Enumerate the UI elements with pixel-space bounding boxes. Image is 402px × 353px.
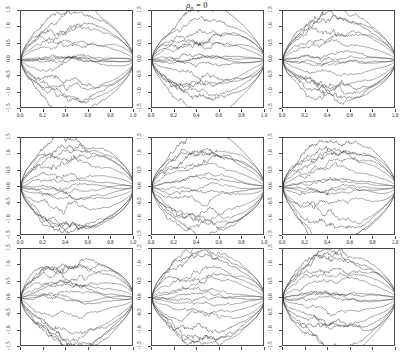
x-tick-label: 0.8 (103, 113, 117, 118)
y-tick-mark (17, 75, 20, 76)
y-tick-label: -0.5 (137, 306, 142, 320)
sample-path (21, 187, 133, 200)
x-tick-label: 0.8 (234, 240, 248, 245)
sample-path (283, 252, 395, 298)
y-tick-label: 1.0 (6, 146, 11, 160)
y-tick-mark (279, 281, 282, 282)
y-tick-mark (148, 10, 151, 11)
y-tick-label: -1.0 (137, 211, 142, 225)
x-tick-mark (350, 347, 351, 350)
sample-path (152, 33, 264, 60)
x-tick-mark (110, 347, 111, 350)
y-tick-mark (17, 92, 20, 93)
y-tick-label: -0.5 (137, 195, 142, 209)
y-tick-mark (148, 137, 151, 138)
sample-path (21, 298, 133, 346)
y-tick-mark (279, 43, 282, 44)
sample-path (21, 298, 133, 342)
y-tick-mark (279, 75, 282, 76)
y-tick-mark (279, 26, 282, 27)
sample-path (21, 60, 133, 102)
y-tick-mark (148, 186, 151, 187)
x-tick-label: 0.6 (212, 113, 226, 118)
sample-path (152, 187, 264, 221)
y-tick-label: -1.5 (6, 101, 11, 115)
y-tick-label: -0.5 (6, 306, 11, 320)
y-tick-label: -0.5 (268, 195, 273, 209)
x-tick-label: 0.8 (365, 113, 379, 118)
y-tick-label: 0.5 (6, 273, 11, 287)
plot-area (282, 248, 395, 346)
y-tick-mark (17, 137, 20, 138)
y-tick-label: -1.0 (6, 322, 11, 336)
y-tick-mark (279, 10, 282, 11)
sample-path (152, 266, 264, 298)
sample-path (283, 298, 395, 346)
sample-path (283, 268, 395, 298)
x-tick-label: 0.6 (81, 113, 95, 118)
y-tick-mark (279, 297, 282, 298)
y-tick-label: 0.0 (137, 52, 142, 66)
y-tick-mark (279, 170, 282, 171)
y-tick-label: 0.5 (137, 273, 142, 287)
x-tick-label: 0.6 (343, 240, 357, 245)
y-tick-label: 1.0 (268, 257, 273, 271)
x-tick-label: 0.0 (13, 113, 27, 118)
sample-path (283, 148, 395, 187)
x-tick-mark (43, 347, 44, 350)
sample-path (152, 60, 264, 87)
sample-path (21, 293, 133, 303)
sample-path (21, 298, 133, 346)
y-tick-label: 0.0 (268, 179, 273, 193)
sample-path (21, 11, 133, 60)
sample-path (283, 60, 395, 65)
y-tick-label: -1.5 (137, 228, 142, 242)
x-tick-label: 0.0 (275, 113, 289, 118)
sample-path (283, 60, 395, 66)
y-tick-mark (148, 202, 151, 203)
y-tick-label: -0.5 (268, 68, 273, 82)
y-tick-label: -1.0 (137, 84, 142, 98)
plot-area (151, 10, 264, 108)
sample-path (283, 298, 395, 327)
y-tick-label: -1.0 (6, 84, 11, 98)
y-tick-mark (17, 313, 20, 314)
x-tick-label: 0.4 (58, 240, 72, 245)
x-tick-mark (133, 347, 134, 350)
y-tick-label: -1.5 (268, 228, 273, 242)
y-tick-label: 1.0 (268, 19, 273, 33)
y-tick-mark (17, 26, 20, 27)
y-tick-label: 1.5 (6, 3, 11, 17)
y-tick-mark (148, 75, 151, 76)
x-tick-label: 0.4 (320, 113, 334, 118)
x-tick-mark (219, 347, 220, 350)
y-tick-mark (17, 248, 20, 249)
x-tick-mark (151, 347, 152, 350)
x-tick-mark (196, 347, 197, 350)
y-tick-label: 0.5 (137, 35, 142, 49)
y-tick-label: -1.0 (268, 322, 273, 336)
x-tick-label: 1.0 (388, 113, 402, 118)
sample-path (152, 60, 264, 88)
y-tick-mark (17, 43, 20, 44)
y-tick-mark (279, 248, 282, 249)
y-tick-label: -1.0 (137, 322, 142, 336)
sample-path (283, 298, 395, 329)
y-tick-label: 1.0 (268, 146, 273, 160)
sample-path (152, 298, 264, 343)
y-tick-label: -0.5 (6, 195, 11, 209)
y-tick-label: 1.5 (6, 241, 11, 255)
x-tick-mark (241, 347, 242, 350)
y-tick-mark (279, 219, 282, 220)
sample-path (283, 177, 395, 187)
y-tick-mark (148, 297, 151, 298)
y-tick-label: 0.0 (6, 179, 11, 193)
y-tick-label: -1.5 (268, 101, 273, 115)
y-tick-label: -1.0 (268, 84, 273, 98)
y-tick-mark (279, 202, 282, 203)
y-tick-mark (17, 264, 20, 265)
sample-path (21, 266, 133, 298)
sample-path (152, 176, 264, 187)
x-tick-label: 0.6 (81, 240, 95, 245)
